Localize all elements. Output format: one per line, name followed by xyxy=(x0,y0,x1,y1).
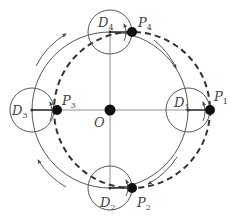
disc-center-d3 xyxy=(31,109,34,112)
diagram-canvas: O D1 P1 D2 P2 D3 P3 D4 P4 xyxy=(0,0,235,220)
label-p2: P2 xyxy=(136,195,151,212)
point-p1 xyxy=(205,105,215,115)
label-d4: D4 xyxy=(97,15,114,32)
label-p3: P3 xyxy=(61,93,76,110)
motion-arrow-icon xyxy=(38,160,66,187)
label-d3: D3 xyxy=(11,103,28,120)
point-p3 xyxy=(52,105,62,115)
label-p1: P1 xyxy=(213,89,228,106)
label-d2: D2 xyxy=(99,195,116,212)
small-arrow-icon xyxy=(203,102,205,121)
label-p4: P4 xyxy=(137,15,152,32)
motion-arrow-icon xyxy=(148,157,177,184)
point-p2 xyxy=(127,183,137,193)
disc-center-d2 xyxy=(109,187,112,190)
motion-arrow-icon xyxy=(36,34,66,66)
small-arrow-icon xyxy=(50,102,52,121)
diagram: O D1 P1 D2 P2 D3 P3 D4 P4 xyxy=(0,0,235,220)
center-o-dot xyxy=(105,105,116,116)
point-p4 xyxy=(127,27,137,37)
label-o: O xyxy=(94,115,105,130)
